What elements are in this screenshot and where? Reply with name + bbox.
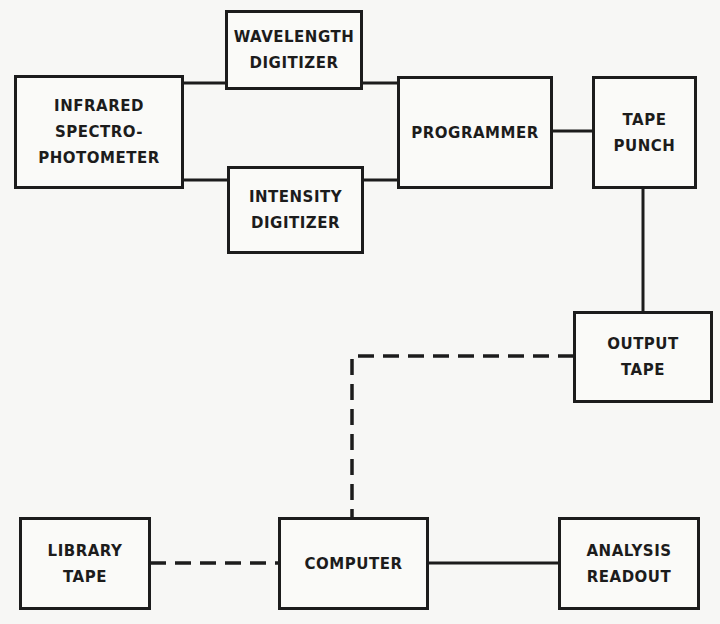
node-library-tape: LIBRARY TAPE xyxy=(19,517,151,610)
node-label: ANALYSIS xyxy=(586,538,671,564)
node-computer: COMPUTER xyxy=(278,517,429,610)
node-tape-punch: TAPE PUNCH xyxy=(592,76,697,189)
node-label: TAPE xyxy=(63,564,107,590)
node-output-tape: OUTPUT TAPE xyxy=(573,311,713,403)
node-label: TAPE xyxy=(623,107,667,133)
node-label: PUNCH xyxy=(614,133,676,159)
node-programmer: PROGRAMMER xyxy=(397,76,553,189)
node-label: WAVELENGTH xyxy=(234,24,355,50)
edge-outputtape-computer xyxy=(352,356,574,518)
node-label: SPECTRO- xyxy=(55,119,143,145)
node-intensity-digitizer: INTENSITY DIGITIZER xyxy=(227,166,364,254)
node-label: OUTPUT xyxy=(607,331,679,357)
node-label: INFRARED xyxy=(54,93,144,119)
node-label: COMPUTER xyxy=(305,551,403,577)
node-label: DIGITIZER xyxy=(251,210,340,236)
node-label: LIBRARY xyxy=(48,538,123,564)
node-label: DIGITIZER xyxy=(250,50,339,76)
node-label: READOUT xyxy=(587,564,672,590)
node-label: PROGRAMMER xyxy=(411,120,538,146)
node-wavelength-digitizer: WAVELENGTH DIGITIZER xyxy=(225,10,363,90)
node-label: PHOTOMETER xyxy=(38,145,159,171)
node-analysis-readout: ANALYSIS READOUT xyxy=(558,517,700,610)
node-label: INTENSITY xyxy=(249,184,342,210)
node-infrared-spectrophotometer: INFRARED SPECTRO- PHOTOMETER xyxy=(14,75,184,189)
node-label: TAPE xyxy=(621,357,665,383)
